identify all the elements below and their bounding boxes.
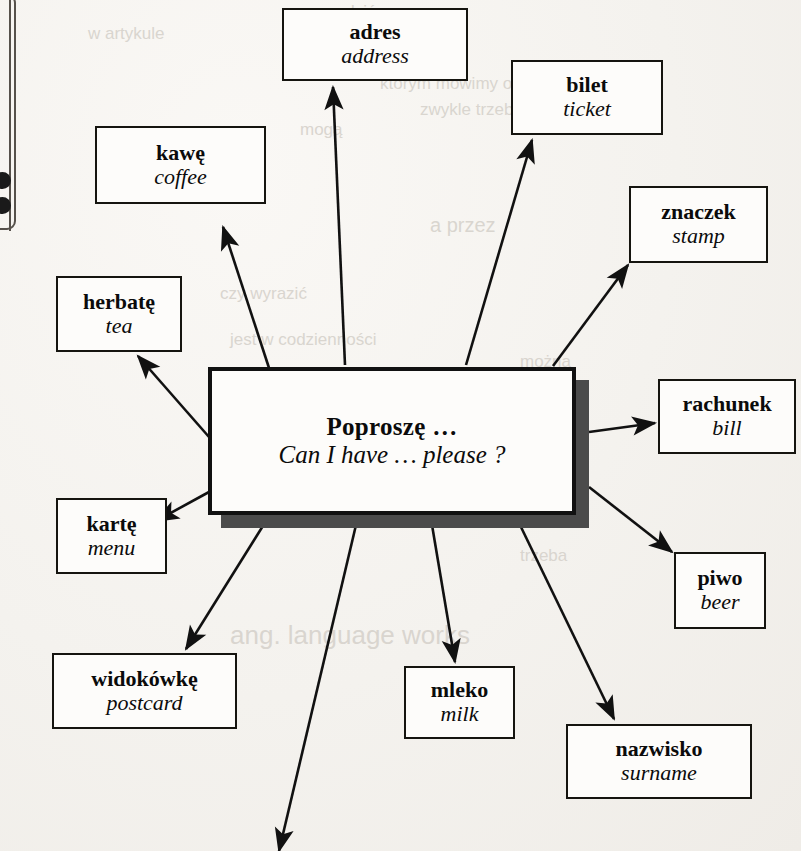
arrow-to-mleko xyxy=(432,525,455,662)
vocab-polish-mleko: mleko xyxy=(431,678,488,702)
vocab-english-nazwisko: surname xyxy=(621,761,697,786)
vocab-box-mleko: mlekomilk xyxy=(404,666,515,739)
vocab-polish-znaczek: znaczek xyxy=(661,200,736,224)
scanned-diagram-page: sprawdzićw artykulektórym mówimy o spraw… xyxy=(0,0,801,851)
center-phrase-polish: Poproszę … xyxy=(327,413,458,440)
vocab-box-adres: adresaddress xyxy=(282,8,468,81)
vocab-english-znaczek: stamp xyxy=(672,224,725,249)
vocab-box-rachunek: rachunekbill xyxy=(658,379,796,454)
vocab-polish-piwo: piwo xyxy=(697,566,742,590)
vocab-english-piwo: beer xyxy=(700,590,739,615)
arrow-to-adres xyxy=(333,87,345,365)
vocab-box-bilet: biletticket xyxy=(511,60,663,135)
arrow-to-widokowke xyxy=(186,521,266,649)
vocab-box-nazwisko: nazwiskosurname xyxy=(566,724,752,799)
vocab-polish-nazwisko: nazwisko xyxy=(616,737,703,761)
vocab-polish-widokowke: widokówkę xyxy=(91,667,197,691)
vocab-box-znaczek: znaczekstamp xyxy=(629,186,768,263)
vocab-english-kawe: coffee xyxy=(154,165,207,190)
arrow-to-piwo xyxy=(589,487,672,552)
vocab-english-rachunek: bill xyxy=(712,416,741,441)
vocab-box-kawe: kawęcoffee xyxy=(95,126,266,204)
vocab-polish-karte: kartę xyxy=(86,512,136,536)
vocab-box-karte: kartęmenu xyxy=(56,498,167,574)
arrow-to-nazwisko xyxy=(520,525,614,719)
arrow-to-rachunek xyxy=(589,423,655,432)
vocab-english-adres: address xyxy=(341,44,409,69)
vocab-english-karte: menu xyxy=(88,536,136,561)
arrow-to-kawe xyxy=(223,227,270,371)
vocab-english-widokowke: postcard xyxy=(106,691,182,716)
vocab-box-herbate: herbatętea xyxy=(56,276,182,352)
vocab-box-piwo: piwobeer xyxy=(674,552,766,629)
center-phrase-box: Poproszę … Can I have … please ? xyxy=(208,367,576,515)
vocab-polish-herbate: herbatę xyxy=(83,290,155,314)
vocab-english-herbate: tea xyxy=(106,314,133,339)
vocab-polish-bilet: bilet xyxy=(566,73,608,97)
vocab-box-widokowke: widokówkępostcard xyxy=(52,653,237,729)
vocab-polish-adres: adres xyxy=(350,20,401,44)
arrow-to-bilet xyxy=(466,140,532,365)
vocab-english-bilet: ticket xyxy=(563,97,611,122)
arrow-to-herbate xyxy=(138,356,209,437)
vocab-english-mleko: milk xyxy=(441,702,479,727)
vocab-polish-kawe: kawę xyxy=(156,141,205,165)
arrow-to-unlabeled-bottom xyxy=(279,525,356,851)
arrow-to-znaczek xyxy=(553,265,628,366)
center-phrase-english: Can I have … please ? xyxy=(278,441,505,469)
vocab-polish-rachunek: rachunek xyxy=(682,392,771,416)
